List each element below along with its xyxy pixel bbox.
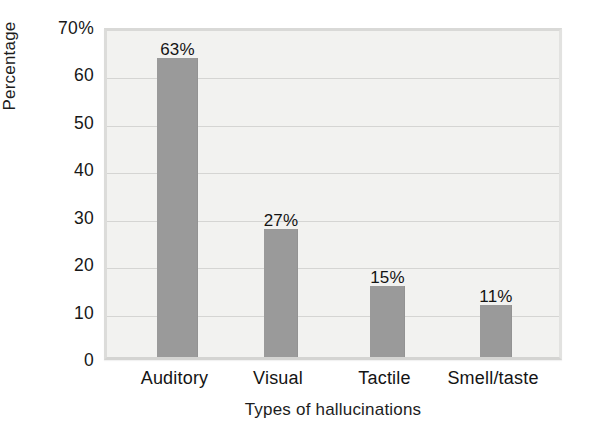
bar-value-label: 15% xyxy=(348,268,428,288)
bar-value-label: 27% xyxy=(241,211,321,231)
bar xyxy=(264,229,298,357)
y-axis-tick-label: 0 xyxy=(84,350,94,371)
bar xyxy=(157,58,198,357)
y-axis-tick-label: 10 xyxy=(74,302,94,323)
x-axis-tick-label: Auditory xyxy=(115,368,235,389)
y-axis-title: Percentage xyxy=(0,0,28,156)
bar-value-label: 63% xyxy=(138,40,218,60)
y-axis-tick-label: 40 xyxy=(74,160,94,181)
x-axis-title: Types of hallucinations xyxy=(104,400,562,420)
bar-value-label: 11% xyxy=(456,287,536,307)
x-axis-tick-label: Tactile xyxy=(325,368,445,389)
y-axis-tick-labels: 70%6050403020100 xyxy=(40,28,98,360)
bar-chart-figure: Percentage 70%6050403020100 63%27%15%11%… xyxy=(0,0,590,445)
y-axis-tick-label: 50 xyxy=(74,112,94,133)
bar xyxy=(480,305,512,357)
y-axis-tick-label: 30 xyxy=(74,207,94,228)
y-axis-tick-label: 70% xyxy=(58,18,94,39)
y-axis-tick-label: 20 xyxy=(74,255,94,276)
x-axis-tick-label: Smell/taste xyxy=(433,368,553,389)
bars-layer: 63%27%15%11% xyxy=(107,31,559,357)
x-axis-tick-label: Visual xyxy=(218,368,338,389)
y-axis-tick-label: 60 xyxy=(74,65,94,86)
x-axis-tick-labels: AuditoryVisualTactileSmell/taste xyxy=(104,368,562,396)
bar xyxy=(370,286,405,357)
plot-area: 63%27%15%11% xyxy=(104,28,562,360)
